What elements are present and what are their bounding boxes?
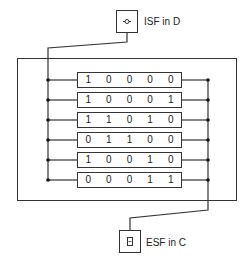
bit-cell: 1 [99, 133, 120, 147]
bit-cell: 1 [160, 173, 181, 187]
bit-cell: 0 [119, 73, 140, 87]
bit-row: 1 1 0 1 0 [77, 112, 182, 128]
bit-cell: 0 [140, 93, 161, 107]
bit-cell: 0 [160, 153, 181, 167]
bit-cell: 0 [119, 113, 140, 127]
connector-circle-icon [117, 11, 137, 32]
bit-cell: 0 [119, 93, 140, 107]
bit-cell: 1 [78, 113, 99, 127]
isf-label: ISF in D [144, 16, 180, 27]
bit-cell: 0 [119, 173, 140, 187]
bit-cell: 1 [78, 153, 99, 167]
esf-node [119, 230, 141, 253]
bit-cell: 1 [99, 113, 120, 127]
bit-cell: 1 [140, 173, 161, 187]
bit-cell: 0 [160, 113, 181, 127]
bit-cell: 1 [160, 93, 181, 107]
bit-cell: 0 [99, 173, 120, 187]
bit-cell: 0 [140, 73, 161, 87]
bit-cell: 1 [140, 113, 161, 127]
bit-cell: 0 [99, 73, 120, 87]
bit-row: 0 1 1 0 0 [77, 132, 182, 148]
bit-cell: 0 [99, 93, 120, 107]
bit-row: 1 0 0 0 1 [77, 92, 182, 108]
isf-node [116, 10, 138, 33]
bit-cell: 1 [119, 133, 140, 147]
bit-cell: 0 [99, 153, 120, 167]
memory-chip-icon [120, 231, 140, 252]
bit-cell: 0 [140, 133, 161, 147]
bit-row: 1 0 0 0 0 [77, 72, 182, 88]
bit-cell: 1 [140, 153, 161, 167]
bit-cell: 1 [78, 73, 99, 87]
bit-cell: 1 [78, 93, 99, 107]
bit-cell: 0 [119, 153, 140, 167]
bit-cell: 0 [160, 73, 181, 87]
bit-cell: 0 [78, 173, 99, 187]
bit-cell: 0 [78, 133, 99, 147]
bit-row: 0 0 0 1 1 [77, 172, 182, 188]
esf-label: ESF in C [146, 237, 186, 248]
bit-row: 1 0 0 1 0 [77, 152, 182, 168]
bit-cell: 0 [160, 133, 181, 147]
